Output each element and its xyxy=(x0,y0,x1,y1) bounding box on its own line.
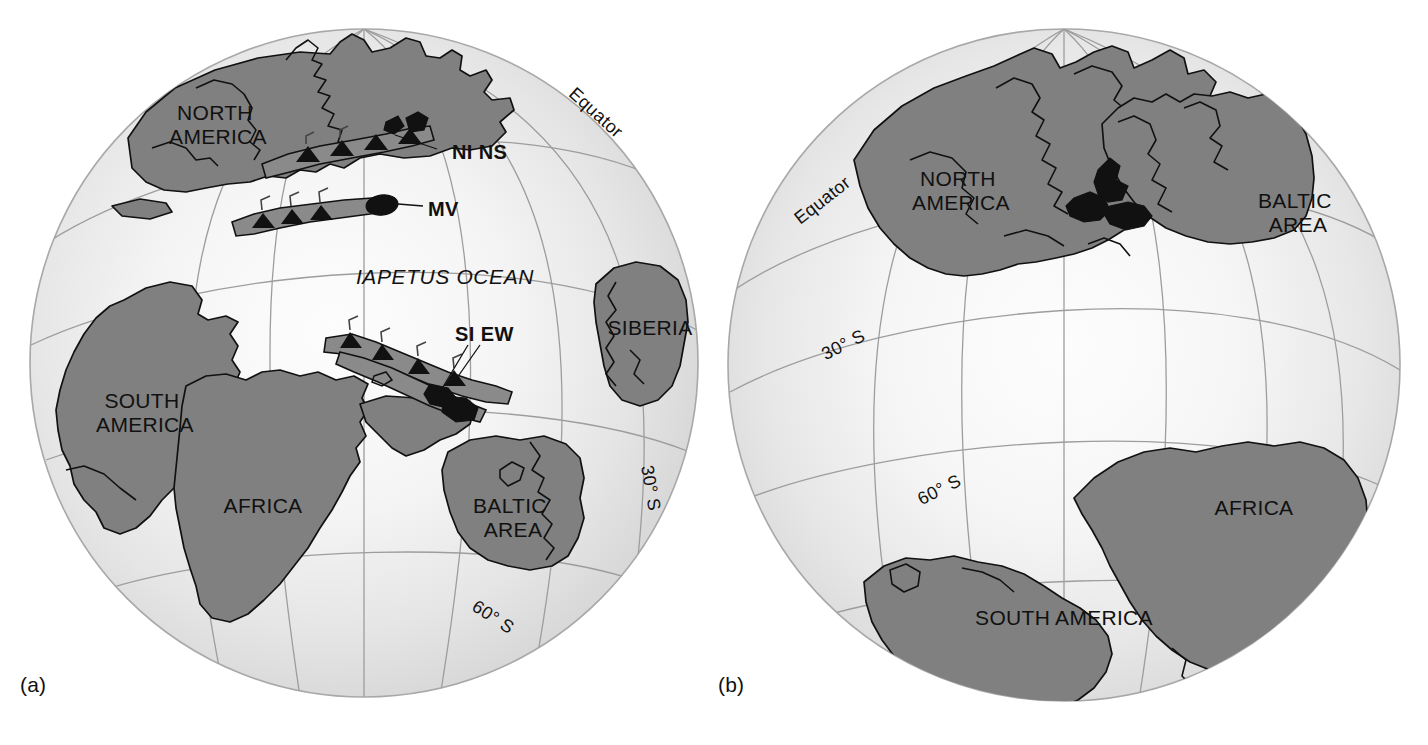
label-siberia-a: SIBERIA xyxy=(608,316,693,339)
label-arc-mv: MV xyxy=(428,198,459,220)
label-arc-si-ew: SI EW xyxy=(455,323,514,345)
label-north-america-a: NORTH AMERICA xyxy=(169,101,267,148)
label-baltic-area-b: BALTIC AREA xyxy=(1258,189,1338,236)
globe-a: NORTH AMERICA SOUTH AMERICA AFRICA BALTI… xyxy=(0,0,714,745)
label-south-america-a: SOUTH AMERICA xyxy=(96,389,194,436)
label-arc-ni-ns: NI NS xyxy=(452,141,507,163)
label-south-america-b: SOUTH AMERICA xyxy=(975,606,1153,629)
panel-a: NORTH AMERICA SOUTH AMERICA AFRICA BALTI… xyxy=(0,0,714,745)
panel-b: NORTH AMERICA BALTIC AREA AFRICA SOUTH A… xyxy=(714,0,1428,745)
label-iapetus-ocean: IAPETUS OCEAN xyxy=(356,265,534,288)
label-africa-a: AFRICA xyxy=(224,494,303,517)
panel-label-a: (a) xyxy=(20,673,46,697)
figure-root: NORTH AMERICA SOUTH AMERICA AFRICA BALTI… xyxy=(0,0,1428,745)
label-north-america-b: NORTH AMERICA xyxy=(912,167,1010,214)
label-africa-b: AFRICA xyxy=(1215,496,1294,519)
panel-label-b: (b) xyxy=(718,673,744,697)
globe-b: NORTH AMERICA BALTIC AREA AFRICA SOUTH A… xyxy=(714,0,1428,745)
label-baltic-area-a: BALTIC AREA xyxy=(473,494,553,541)
